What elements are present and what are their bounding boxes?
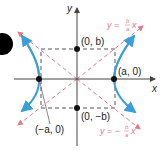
bottom-covertex-point: [74, 105, 80, 111]
bottom-covertex-label: (0, −b): [81, 111, 110, 122]
right-vertex-point: [111, 76, 117, 82]
top-covertex-label: (0, b): [81, 36, 104, 47]
left-vertex-label: (−a, 0): [35, 124, 64, 135]
svg-text:a: a: [126, 26, 130, 32]
bullet-marker: [0, 33, 13, 55]
svg-text:x: x: [130, 126, 136, 136]
asymptote-negative-label: y = − b a x: [99, 124, 136, 138]
top-covertex-point: [74, 46, 80, 52]
hyperbola-diagram: y x (0, b) (a, 0) (0, −b) (−a, 0) y = b …: [0, 0, 163, 151]
svg-text:y = −: y = −: [99, 126, 120, 136]
svg-text:b: b: [125, 124, 129, 130]
left-vertex-point: [36, 76, 42, 82]
x-axis-label: x: [151, 83, 158, 94]
svg-text:x: x: [131, 20, 137, 30]
asymptote-negative: [18, 32, 140, 129]
y-axis-label: y: [66, 3, 73, 14]
svg-text:b: b: [126, 18, 130, 24]
svg-text:y =: y =: [106, 20, 119, 30]
right-vertex-label: (a, 0): [118, 66, 141, 77]
svg-text:a: a: [125, 132, 129, 138]
asymptote-positive-label: y = b a x: [106, 18, 137, 32]
